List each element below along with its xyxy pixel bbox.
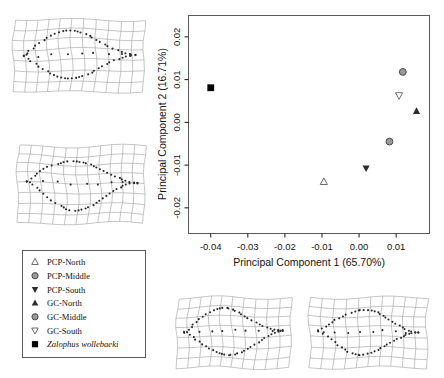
tps-landmark-point (272, 330, 274, 332)
tps-landmark-point (404, 334, 406, 336)
tps-landmark-point (227, 307, 229, 309)
tps-landmark-point (379, 347, 381, 349)
tps-grid-line-v (332, 299, 335, 369)
tps-grid-line-v (425, 299, 428, 369)
tps-landmark-point (223, 354, 225, 356)
x-tick-label: -0.02 (274, 241, 296, 252)
legend-label: PCP-South (47, 285, 86, 295)
legend-label: GC-South (47, 326, 83, 336)
tps-landmark-point (363, 309, 365, 311)
tps-landmark-point (263, 337, 265, 339)
tps-landmark-point (395, 330, 397, 332)
legend-marker-gc-north (32, 300, 39, 306)
legend-marker-pcp-middle (32, 273, 38, 279)
tps-landmark-point (208, 347, 210, 349)
y-axis-ticks: -0.02-0.010.000.010.02 (172, 28, 189, 219)
tps-landmark-point (280, 330, 282, 332)
tps-landmark-point (186, 331, 188, 333)
tps-landmark-point (274, 332, 276, 334)
tps-landmark-point (234, 353, 236, 355)
tps-landmark-point (244, 330, 246, 332)
legend-label: PCP-North (47, 257, 86, 267)
tps-landmark-point (229, 354, 231, 356)
tps-landmark-point (189, 334, 191, 336)
tps-landmark-point (209, 311, 211, 313)
tps-landmark-point (379, 313, 381, 315)
deformation-grid-bottom-center-svg (172, 292, 294, 372)
legend-label: Zalophus wollebaeki (47, 339, 119, 349)
tps-landmark-point (211, 330, 213, 332)
tps-landmark-point (258, 341, 260, 343)
tps-landmark-point (198, 318, 200, 320)
tps-grid-line-v (230, 297, 234, 367)
tps-landmark-point (205, 345, 207, 347)
tps-landmark-point (261, 339, 263, 341)
legend-svg: PCP-NorthPCP-MiddlePCP-SouthGC-NorthGC-M… (23, 251, 145, 357)
tps-landmark-point (261, 325, 263, 327)
tps-landmark-point (244, 315, 246, 317)
tps-landmark-point (393, 340, 395, 342)
tps-landmark-point (351, 312, 353, 314)
tps-landmark-point (327, 335, 329, 337)
tps-landmark-point (367, 353, 369, 355)
tps-landmark-point (408, 333, 410, 335)
tps-landmark-point (201, 343, 203, 345)
tps-grid-line-v (402, 297, 405, 367)
data-point-gc-north (413, 107, 420, 114)
tps-landmark-point (221, 307, 223, 309)
data-point-pcp-north (320, 178, 327, 185)
figure-canvas: -0.04-0.03-0.02-0.010.000.01 -0.02-0.010… (0, 0, 444, 378)
legend-box: PCP-NorthPCP-MiddlePCP-SouthGC-NorthGC-M… (22, 250, 146, 358)
tps-landmark-point (333, 319, 335, 321)
tps-landmark-point (270, 333, 272, 335)
tps-landmark-point (400, 337, 402, 339)
deformation-grid-bottom-right (306, 292, 432, 372)
tps-grid-line-h (308, 315, 425, 317)
tps-landmark-point (277, 331, 279, 333)
tps-landmark-point (336, 344, 338, 346)
tps-landmark-point (342, 315, 344, 317)
tps-grid-line-h (176, 366, 289, 370)
tps-landmark-point (377, 311, 379, 313)
tps-landmark-point (331, 321, 333, 323)
tps-landmark-point (267, 335, 269, 337)
tps-landmark-point (344, 349, 346, 351)
tps-landmark-point (240, 313, 242, 315)
tps-landmark-point (334, 332, 336, 334)
tps-landmark-point (241, 351, 243, 353)
tps-landmark-point (234, 329, 236, 331)
tps-landmark-point (394, 323, 396, 325)
legend-label: GC-North (47, 298, 83, 308)
tps-landmark-point (259, 323, 261, 325)
tps-landmark-point (371, 309, 373, 311)
tps-landmark-point (192, 323, 194, 325)
plot-frame (189, 16, 430, 234)
tps-grid-line-h (311, 346, 428, 349)
tps-landmark-point (399, 325, 401, 327)
tps-landmark-point (345, 314, 347, 316)
tps-landmark-point (355, 353, 357, 355)
tps-landmark-point (212, 349, 214, 351)
tps-landmark-point (321, 327, 323, 329)
tps-landmark-point (219, 352, 221, 354)
tps-landmark-point (255, 321, 257, 323)
x-axis-ticks: -0.04-0.03-0.02-0.010.000.01 (200, 234, 405, 252)
tps-landmark-point (234, 310, 236, 312)
tps-landmark-point (383, 315, 385, 317)
legend-marker-gc-middle (32, 314, 38, 320)
plot-frame-rect (189, 16, 430, 234)
tps-landmark-point (238, 312, 240, 314)
tps-landmark-point (410, 330, 412, 332)
tps-landmark-point (219, 307, 221, 309)
tps-landmark-point (249, 346, 251, 348)
tps-grid-line-v (265, 299, 268, 369)
tps-landmark-point (347, 332, 349, 334)
tps-landmark-point (384, 316, 386, 318)
legend-label: GC-Middle (47, 312, 87, 322)
tps-landmark-point (188, 329, 190, 331)
tps-landmark-point (358, 354, 360, 356)
pca-scatter-plot: -0.04-0.03-0.02-0.010.000.01 -0.02-0.010… (0, 0, 444, 290)
tps-landmark-point (367, 309, 369, 311)
tps-landmark-point (359, 309, 361, 311)
tps-landmark-point (213, 309, 215, 311)
